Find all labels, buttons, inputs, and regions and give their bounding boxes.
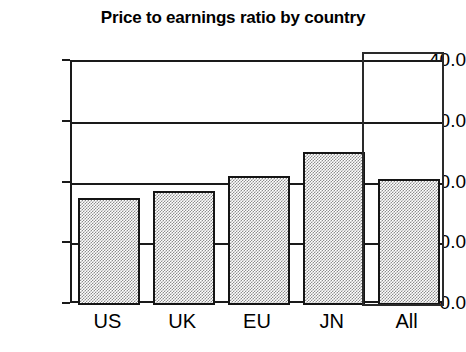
- y-tick-mark: [62, 181, 70, 183]
- y-tick-mark: [62, 302, 70, 304]
- x-tick-label: JN: [292, 310, 372, 332]
- gridline: [72, 122, 442, 124]
- chart-title: Price to earnings ratio by country: [0, 8, 466, 28]
- bar-uk: [153, 191, 215, 305]
- bar-eu: [228, 176, 290, 305]
- y-tick-mark: [62, 59, 70, 61]
- x-tick-label: EU: [217, 310, 297, 332]
- bar-us: [78, 198, 140, 305]
- x-tick-label: US: [67, 310, 147, 332]
- y-tick-mark: [62, 120, 70, 122]
- plot-area: [70, 60, 444, 303]
- y-tick-mark: [62, 241, 70, 243]
- x-tick-label: UK: [142, 310, 222, 332]
- bar-all: [378, 179, 440, 305]
- x-tick-label: All: [367, 310, 447, 332]
- bar-chart: Price to earnings ratio by country 40.03…: [0, 0, 466, 352]
- bar-jn: [303, 152, 365, 305]
